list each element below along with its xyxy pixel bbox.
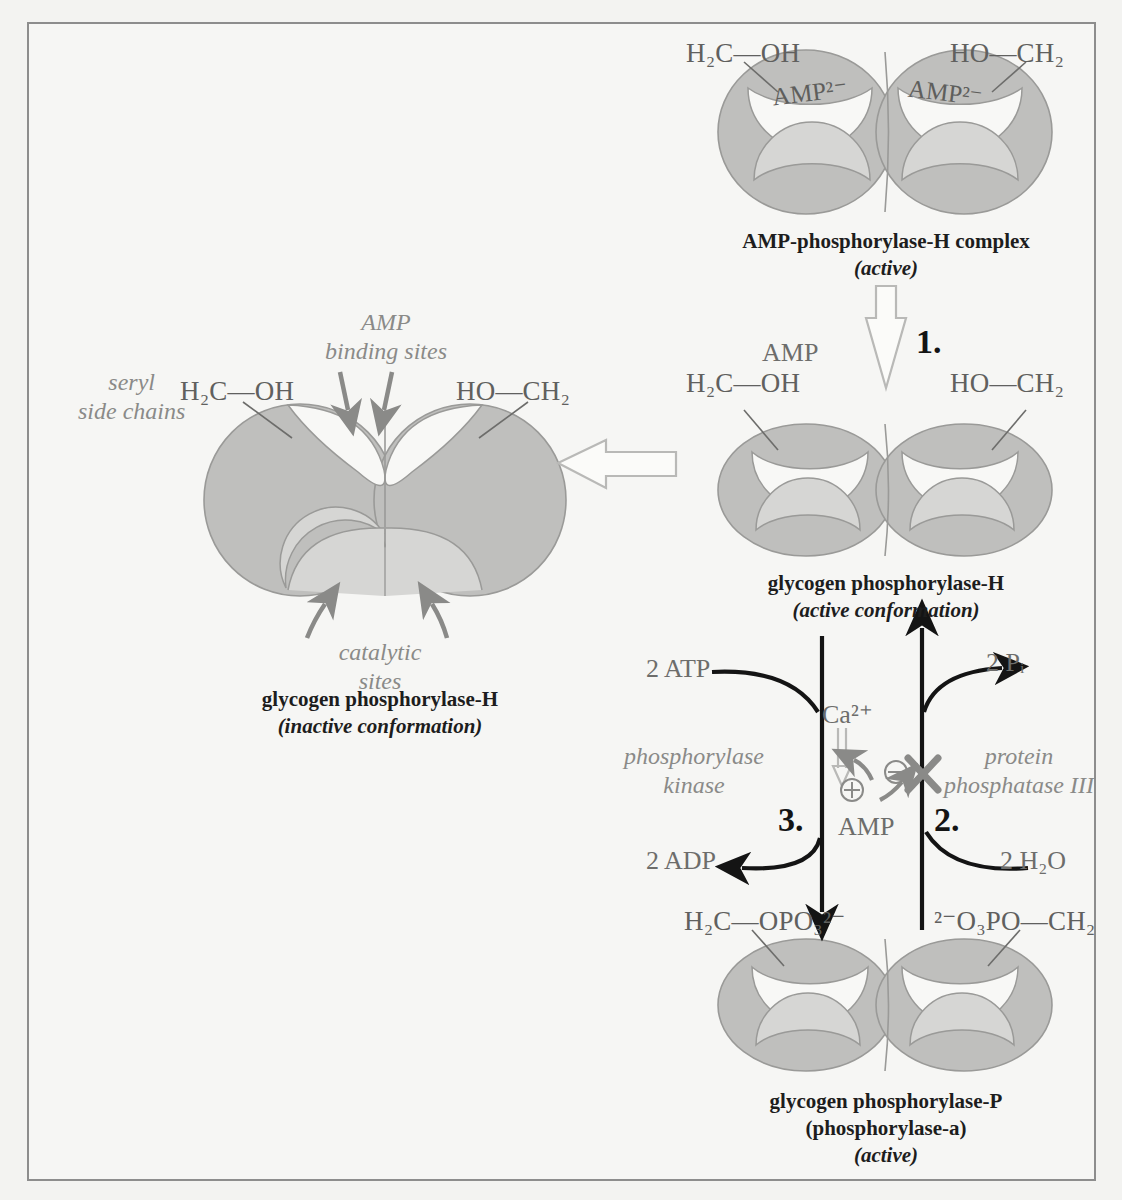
amp-inhibition-symbol: [880, 761, 907, 800]
seryl-side-chains-line2: side chains: [78, 397, 185, 426]
step-1-amp-ligand: AMP: [762, 338, 818, 368]
amp-binding-sites-line2: binding sites: [325, 337, 447, 366]
protein-phosphatase-label: protein phosphatase III: [944, 742, 1094, 800]
figure-canvas: H₂C—OH HO—CH₂ AMP²⁻ AMP²⁻ AMP-phosphoryl…: [0, 0, 1122, 1200]
amp-binding-sites-line1: AMP: [325, 308, 447, 337]
protein-phosphatase-line1: protein: [944, 742, 1094, 771]
step1-hollow-arrow-up: [866, 286, 906, 388]
structure-inactive-h-graphic: [204, 372, 566, 638]
phospho-p-left-serine: H₂C—OPO₃²⁻: [684, 906, 845, 937]
structure-active-h-graphic: [718, 410, 1052, 556]
pi-product-label: 2 Pᵢ: [986, 648, 1024, 678]
seryl-side-chains-annotation: seryl side chains: [78, 368, 185, 426]
calcium-activation-symbol: [833, 728, 872, 801]
active-h-caption: glycogen phosphorylase-H (active conform…: [768, 570, 1004, 624]
phospho-p-caption-line2: (phosphorylase-a): [770, 1115, 1003, 1142]
active-h-caption-line2: (active conformation): [768, 597, 1004, 624]
amp-inhibitor-label: AMP: [838, 812, 894, 842]
inactive-h-caption: glycogen phosphorylase-H (inactive confo…: [262, 686, 498, 740]
phospho-p-caption: glycogen phosphorylase-P (phosphorylase-…: [770, 1088, 1003, 1169]
phosphorylase-kinase-label: phosphorylase kinase: [624, 742, 764, 800]
amp-binding-sites-annotation: AMP binding sites: [325, 308, 447, 366]
inactive-h-left-serine: H₂C—OH: [180, 376, 294, 407]
structure-phospho-p-graphic: [718, 930, 1052, 1071]
phosphorylase-kinase-line2: kinase: [624, 771, 764, 800]
amp-complex-caption-line1: AMP-phosphorylase-H complex: [742, 228, 1030, 255]
catalytic-sites-line1: catalytic: [339, 638, 422, 667]
atp-substrate-label: 2 ATP: [646, 654, 710, 684]
structure-amp-complex-graphic: [718, 50, 1052, 214]
protein-phosphatase-line2: phosphatase III: [944, 771, 1094, 800]
inactive-h-caption-line1: glycogen phosphorylase-H: [262, 686, 498, 713]
phospho-p-right-serine: ²⁻O₃PO—CH₂: [934, 906, 1095, 937]
seryl-side-chains-line1: seryl: [78, 368, 185, 397]
active-h-caption-line1: glycogen phosphorylase-H: [768, 570, 1004, 597]
phospho-p-caption-line3: (active): [770, 1142, 1003, 1169]
active-h-left-serine: H₂C—OH: [686, 368, 800, 399]
amp-complex-left-serine: H₂C—OH: [686, 38, 800, 69]
amp-complex-caption: AMP-phosphorylase-H complex (active): [742, 228, 1030, 282]
step-3-number: 3.: [778, 800, 804, 839]
conformation-hollow-arrow-left: [558, 440, 676, 488]
water-substrate-label: 2 H₂O: [1000, 846, 1066, 876]
step-2-number: 2.: [934, 800, 960, 839]
amp-complex-caption-line2: (active): [742, 255, 1030, 282]
inactive-h-caption-line2: (inactive conformation): [262, 713, 498, 740]
amp-complex-right-serine: HO—CH₂: [950, 38, 1064, 69]
inactive-h-right-serine: HO—CH₂: [456, 376, 570, 407]
adp-product-label: 2 ADP: [646, 846, 716, 876]
phospho-p-caption-line1: glycogen phosphorylase-P: [770, 1088, 1003, 1115]
active-h-right-serine: HO—CH₂: [950, 368, 1064, 399]
step-1-number: 1.: [916, 322, 942, 361]
calcium-activator-label: Ca²⁺: [822, 700, 873, 730]
phosphorylase-kinase-line1: phosphorylase: [624, 742, 764, 771]
